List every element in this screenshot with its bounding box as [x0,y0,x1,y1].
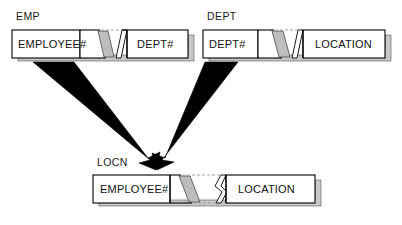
table-label-emp: EMP [16,10,40,22]
table-emp-col-1-text: EMPLOYEE# [18,38,87,50]
table-emp-col-2-text: DEPT# [137,38,174,50]
table-dept-col-2-text: LOCATION [315,38,372,50]
table-emp: EMPLOYEE# DEPT# [12,30,194,61]
table-dept-col-1-text: DEPT# [209,38,246,50]
arrow-emp-to-locn [33,62,160,170]
table-dept-torn-edge [292,30,303,58]
table-dept: DEPT# LOCATION [203,30,391,61]
table-locn-col-1-text: EMPLOYEE# [100,183,169,195]
table-locn-torn-flap [179,176,200,202]
table-locn-col-2-text: LOCATION [238,183,295,195]
table-locn-torn-edge [215,175,227,203]
table-label-dept: DEPT [207,10,237,22]
arrow-dept-to-locn [152,62,238,170]
table-emp-torn-edge [116,30,127,58]
table-label-locn: LOCN [97,156,128,168]
table-locn: EMPLOYEE# LOCATION [93,175,321,206]
diagram-canvas: EMPLOYEE# DEPT# DEPT# LOCATION [0,0,402,225]
diagram-svg: EMPLOYEE# DEPT# DEPT# LOCATION [0,0,402,225]
